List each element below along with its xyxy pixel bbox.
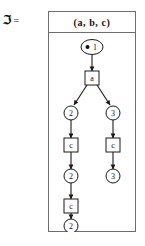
diagram-graph-area: 1 a 2 3 <box>49 33 135 232</box>
edge-na-n2a <box>74 85 87 105</box>
node-box-c-right[interactable]: c <box>106 138 120 152</box>
node-circle-3-b[interactable]: 3 <box>106 169 120 183</box>
node-box-c-left-1[interactable]: c <box>64 138 78 152</box>
node-box-a[interactable]: a <box>85 71 99 85</box>
node-label: 2 <box>69 172 73 181</box>
filled-dot-icon <box>86 45 90 49</box>
edge-na-n3a <box>97 85 110 105</box>
diagram-svg: 1 a 2 3 <box>49 33 135 232</box>
node-label: 2 <box>69 222 73 231</box>
equals-sign: = <box>14 16 20 26</box>
figure-root: ℑ = (a, b, c) <box>0 0 145 246</box>
node-label: 1 <box>93 43 97 52</box>
figure-left-label: ℑ = <box>3 14 19 26</box>
node-circle-3-a[interactable]: 3 <box>106 106 120 120</box>
node-label: 3 <box>111 172 115 181</box>
node-shape-ellipse <box>81 40 103 55</box>
diagram-header: (a, b, c) <box>49 12 135 33</box>
node-root-1[interactable]: 1 <box>81 40 103 55</box>
node-label: a <box>90 74 94 83</box>
node-circle-2-c[interactable]: 2 <box>64 219 78 232</box>
node-circle-2-b[interactable]: 2 <box>64 169 78 183</box>
diagram-title: (a, b, c) <box>73 17 110 28</box>
node-label: c <box>69 202 73 211</box>
node-box-c-left-2[interactable]: c <box>64 199 78 213</box>
node-label: c <box>69 141 73 150</box>
node-label: 3 <box>111 109 115 118</box>
node-label: c <box>111 141 115 150</box>
node-circle-2-a[interactable]: 2 <box>64 106 78 120</box>
diagram-frame: (a, b, c) <box>48 11 136 232</box>
node-label: 2 <box>69 109 73 118</box>
fraktur-n-symbol: ℑ <box>3 14 11 26</box>
